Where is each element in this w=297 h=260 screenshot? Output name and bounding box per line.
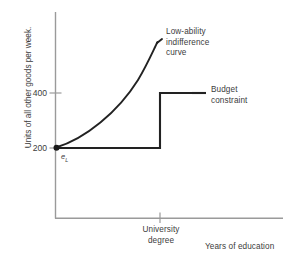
chart-figure: Units of all other goods per week. 400 2… [0, 0, 297, 260]
indifference-curve-line [56, 42, 158, 148]
y-tick-label-400: 400 [20, 88, 47, 98]
indifference-curve-annotation: Low-ability indifference curve [166, 27, 209, 59]
x-tick-label-university-degree: University degree [134, 225, 188, 246]
endowment-point-label: eL [61, 152, 68, 165]
endowment-point-subscript: L [65, 157, 68, 163]
x-axis-title: Years of education [205, 242, 274, 253]
y-tick-label-200: 200 [20, 143, 47, 153]
endowment-point-marker [54, 145, 60, 151]
budget-constraint-line [56, 93, 205, 148]
chart-plot-area [0, 0, 297, 260]
indifference-label-leader [157, 39, 162, 43]
budget-constraint-annotation: Budget constraint [211, 85, 248, 106]
